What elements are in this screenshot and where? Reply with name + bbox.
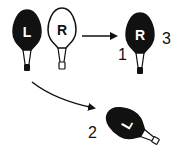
bulb-letter: R [135,27,145,43]
bulb-letter: R [57,22,67,38]
label-2: 2 [88,124,97,141]
bulb-r-black: R [126,13,154,74]
bulb-letter: L [23,24,32,40]
label-3: 3 [162,30,171,47]
bulb-transformation-diagram: L R R 1 3 L 2 [0,0,182,156]
label-1: 1 [118,46,127,63]
bulb-r-white: R [48,8,76,69]
arrow-curved [32,82,94,108]
bulb-l-black: L [13,10,41,71]
bulb-l-rotated: L [101,101,165,154]
